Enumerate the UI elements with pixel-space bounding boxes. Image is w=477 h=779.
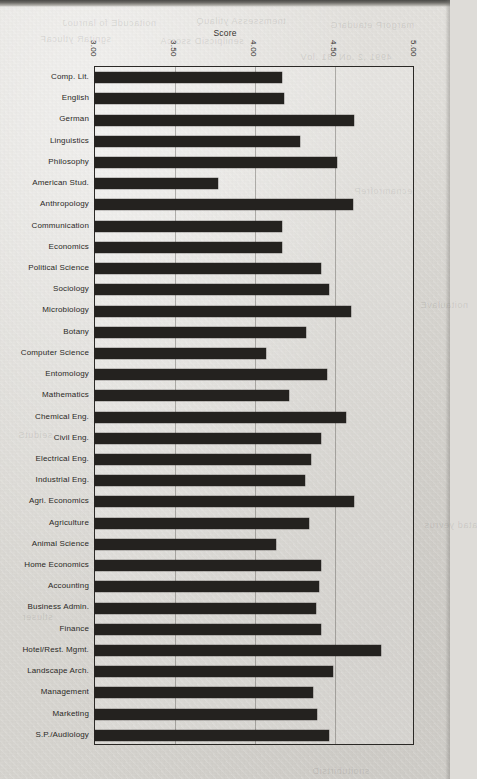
bar — [95, 645, 381, 656]
x-tick-label: 3.50 — [169, 40, 178, 57]
category-label: Marketing — [53, 707, 89, 720]
bar-row: Finance — [95, 619, 413, 640]
bar — [95, 72, 282, 83]
bar-row: Entomology — [95, 364, 413, 385]
bar — [95, 433, 321, 444]
bar — [95, 178, 218, 189]
category-label: Linguistics — [50, 134, 89, 147]
category-label: Chemical Eng. — [35, 410, 89, 423]
bar — [95, 136, 300, 147]
category-label: German — [59, 112, 89, 125]
category-label: Accounting — [48, 579, 89, 592]
bar-row: Economics — [95, 237, 413, 258]
category-label: Management — [41, 685, 89, 698]
x-tick-label: 4.00 — [249, 40, 258, 57]
bar — [95, 518, 309, 529]
category-label: English — [62, 91, 89, 104]
bar-row: Chemical Eng. — [95, 407, 413, 428]
bar — [95, 199, 353, 210]
bar — [95, 412, 346, 423]
bar — [95, 348, 266, 359]
bar — [95, 687, 313, 698]
category-label: Hotel/Rest. Mgmt. — [22, 643, 89, 656]
bar — [95, 581, 319, 592]
bar — [95, 115, 354, 126]
bar-row: Botany — [95, 322, 413, 343]
bar — [95, 284, 329, 295]
bar-row: Anthropology — [95, 194, 413, 215]
bar-row: Agri. Economics — [95, 491, 413, 512]
category-label: Sociology — [53, 282, 89, 295]
x-tick-label: 4.50 — [329, 40, 338, 57]
bar-row: Political Science — [95, 258, 413, 279]
category-label: Agriculture — [49, 516, 89, 529]
bar — [95, 603, 316, 614]
bar — [95, 560, 321, 571]
category-label: Anthropology — [40, 197, 89, 210]
bar-row: Microbiology — [95, 300, 413, 321]
bar-row: S.P./Audiology — [95, 725, 413, 746]
bar-row: Communication — [95, 216, 413, 237]
bar — [95, 306, 351, 317]
category-label: American Stud. — [32, 176, 89, 189]
bar-row: English — [95, 88, 413, 109]
bar-row: American Stud. — [95, 173, 413, 194]
bar-row: Linguistics — [95, 131, 413, 152]
plot-area: Comp. Lit.EnglishGermanLinguisticsPhilos… — [94, 66, 414, 745]
bar — [95, 539, 276, 550]
bar-row: Industrial Eng. — [95, 470, 413, 491]
x-tick-label: 3.00 — [89, 40, 98, 57]
bar-row: Marketing — [95, 704, 413, 725]
bar — [95, 157, 337, 168]
category-label: Industrial Eng. — [36, 473, 89, 486]
category-label: Entomology — [45, 367, 89, 380]
bar — [95, 93, 284, 104]
bar — [95, 454, 311, 465]
bar — [95, 327, 306, 338]
category-label: Botany — [63, 325, 89, 338]
category-label: Electrical Eng. — [36, 452, 89, 465]
bar-row: Animal Science — [95, 534, 413, 555]
category-label: Economics — [49, 240, 89, 253]
bar — [95, 369, 327, 380]
bar-row: Management — [95, 682, 413, 703]
x-tick-label: 5.00 — [409, 40, 418, 57]
bar — [95, 730, 329, 741]
bar-row: Landscape Arch. — [95, 661, 413, 682]
category-label: Agri. Economics — [29, 494, 89, 507]
bar — [95, 475, 305, 486]
bar-row: Civil Eng. — [95, 428, 413, 449]
bar-row: Computer Science — [95, 343, 413, 364]
category-label: Philosophy — [48, 155, 89, 168]
bar-row: Home Economics — [95, 555, 413, 576]
bar — [95, 221, 282, 232]
category-label: Communication — [31, 219, 89, 232]
bar-row: Philosophy — [95, 152, 413, 173]
bar-row: Business Admin. — [95, 597, 413, 618]
bar — [95, 390, 289, 401]
bar-row: Agriculture — [95, 513, 413, 534]
bar-row: Accounting — [95, 576, 413, 597]
bar-row: Mathematics — [95, 385, 413, 406]
bar — [95, 496, 354, 507]
bar — [95, 242, 282, 253]
bar — [95, 666, 333, 677]
category-label: S.P./Audiology — [35, 728, 89, 741]
category-label: Landscape Arch. — [27, 664, 89, 677]
bar — [95, 709, 317, 720]
bar — [95, 263, 321, 274]
category-label: Business Admin. — [28, 600, 89, 613]
category-label: Political Science — [28, 261, 89, 274]
category-label: Animal Science — [32, 537, 89, 550]
bar-row: Hotel/Rest. Mgmt. — [95, 640, 413, 661]
bar-row: Electrical Eng. — [95, 449, 413, 470]
x-axis-title: Score — [0, 28, 450, 38]
bar-row: Comp. Lit. — [95, 67, 413, 88]
category-label: Microbiology — [42, 303, 89, 316]
category-label: Mathematics — [42, 388, 89, 401]
category-label: Computer Science — [21, 346, 89, 359]
bar-row: German — [95, 109, 413, 130]
category-label: Comp. Lit. — [51, 70, 89, 83]
category-label: Finance — [59, 622, 89, 635]
